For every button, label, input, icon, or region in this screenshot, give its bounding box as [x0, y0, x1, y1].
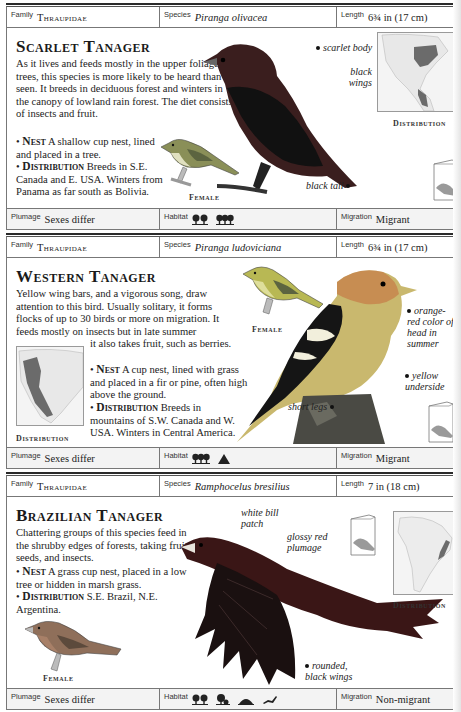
entry-divider — [6, 3, 461, 5]
species-title: Brazilian Tanager — [16, 506, 163, 526]
species-cell: Species Piranga ludoviciana — [160, 237, 337, 257]
family-value: Thraupidae — [37, 12, 87, 23]
nest-section: • Nest A cup nest, lined with grass and … — [90, 363, 250, 402]
distribution-section: • Distribution Breeds in mountains of S.… — [90, 401, 240, 440]
species-info-bar: Family Thraupidae Species Ramphocelus br… — [6, 475, 461, 497]
length-value: 6¾ in (17 cm) — [368, 242, 428, 253]
scrub-icon — [216, 694, 230, 705]
length-label: Length — [341, 479, 364, 488]
north-america-map-icon — [17, 347, 84, 426]
farmland-icon — [262, 694, 278, 705]
species-label: Species — [164, 479, 191, 488]
length-label: Length — [341, 10, 364, 19]
habitat-cell: Habitat — [160, 209, 337, 229]
map-caption: Distribution — [16, 434, 69, 443]
page-gutter — [453, 0, 461, 712]
species-description-continued: it also takes fruit, such as berries. — [90, 338, 240, 351]
plumage-value: Sexes differ — [45, 694, 95, 705]
map-caption: Distribution — [393, 119, 446, 128]
species-label: Species — [164, 240, 191, 249]
plumage-label: Plumage — [11, 212, 41, 221]
plumage-cell: Plumage Sexes differ — [7, 448, 160, 468]
annotation-rounded-black-wings: rounded, black wings — [305, 660, 365, 682]
habitat-label: Habitat — [164, 212, 188, 221]
migration-cell: Migration Non-migrant — [337, 689, 461, 709]
annotation-head-color: orange-red color of head in summer — [407, 305, 457, 349]
field-guide-scale-icon — [349, 513, 379, 557]
coniferous-forest-icon — [192, 453, 210, 464]
length-cell: Length 6¾ in (17 cm) — [337, 7, 461, 27]
annotation-black-wings: black wings — [332, 66, 372, 88]
distribution-heading: Distribution — [22, 590, 84, 602]
species-value: Piranga ludoviciana — [195, 242, 282, 253]
species-title: Scarlet Tanager — [16, 37, 150, 57]
habitat-icons — [192, 453, 230, 464]
mountain-icon — [218, 453, 230, 464]
migration-value: Migrant — [376, 453, 410, 464]
species-entry-western-tanager: Family Thraupidae Species Piranga ludovi… — [6, 233, 461, 469]
species-cell: Species Ramphocelus bresilius — [160, 476, 337, 496]
species-title: Western Tanager — [16, 267, 156, 287]
length-value: 6¾ in (17 cm) — [368, 12, 428, 23]
female-caption: Female — [43, 674, 74, 683]
migration-value: Non-migrant — [376, 694, 430, 705]
species-footer-bar: Plumage Sexes differ Habitat Migration M… — [6, 208, 461, 230]
annotation-scarlet-body: scarlet body — [316, 42, 372, 53]
distribution-heading: Distribution — [22, 160, 84, 172]
habitat-cell: Habitat — [160, 448, 337, 468]
plumage-value: Sexes differ — [45, 214, 95, 225]
entry-divider — [6, 233, 461, 235]
species-value: Ramphocelus bresilius — [195, 481, 290, 492]
migration-value: Migrant — [376, 214, 410, 225]
habitat-icons — [192, 694, 278, 705]
habitat-cell: Habitat — [160, 689, 337, 709]
migration-label: Migration — [341, 212, 372, 221]
species-label: Species — [164, 10, 191, 19]
annotation-glossy-red-plumage: glossy red plumage — [287, 531, 337, 553]
family-label: Family — [11, 10, 33, 19]
habitat-icons — [192, 214, 234, 225]
description-continued-text: it also takes fruit, such as berries. — [90, 338, 231, 349]
species-cell: Species Piranga olivacea — [160, 7, 337, 27]
species-value: Piranga olivacea — [195, 12, 268, 23]
description-text: Chattering groups of this species feed i… — [16, 527, 194, 563]
length-label: Length — [341, 240, 364, 249]
plumage-label: Plumage — [11, 692, 41, 701]
migration-cell: Migration Migrant — [337, 448, 461, 468]
distribution-map — [16, 346, 84, 426]
distribution-heading: Distribution — [96, 401, 158, 413]
plumage-cell: Plumage Sexes differ — [7, 209, 160, 229]
length-cell: Length 7 in (18 cm) — [337, 476, 461, 496]
nest-heading: Nest — [22, 135, 45, 147]
family-value: Thraupidae — [37, 481, 87, 492]
marsh-icon — [238, 694, 254, 705]
entry-body: Brazilian Tanager Chattering groups of t… — [6, 497, 461, 688]
deciduous-forest-icon — [192, 694, 208, 705]
species-footer-bar: Plumage Sexes differ Habitat Migration M… — [6, 447, 461, 469]
mixed-forest-icon — [216, 214, 234, 225]
migration-label: Migration — [341, 692, 372, 701]
family-label: Family — [11, 479, 33, 488]
distribution-map — [393, 511, 457, 595]
entry-divider — [6, 472, 461, 474]
species-entry-brazilian-tanager: Family Thraupidae Species Ramphocelus br… — [6, 472, 461, 710]
scarlet-tanager-illustration — [197, 36, 367, 201]
species-info-bar: Family Thraupidae Species Piranga olivac… — [6, 6, 461, 28]
annotation-short-legs: short legs — [288, 401, 337, 412]
map-caption: Distribution — [393, 601, 446, 610]
species-description: Yellow wing bars, and a vigorous song, d… — [16, 288, 236, 338]
plumage-value: Sexes differ — [45, 453, 95, 464]
migration-label: Migration — [341, 451, 372, 460]
nest-section: • Nest A grass cup nest, placed in a low… — [16, 565, 191, 591]
distribution-map — [377, 32, 461, 112]
annotation-yellow-underside: yellow underside — [405, 370, 455, 392]
entry-body: Western Tanager Yellow wing bars, and a … — [6, 258, 461, 447]
family-cell: Family Thraupidae — [7, 7, 160, 27]
nest-heading: Nest — [22, 565, 45, 577]
family-label: Family — [11, 240, 33, 249]
entry-body: Scarlet Tanager As it lives and feeds mo… — [6, 28, 461, 208]
length-value: 7 in (18 cm) — [368, 481, 420, 492]
nest-section: • Nest A shallow cup nest, lined and pla… — [16, 135, 166, 161]
species-description: Chattering groups of this species feed i… — [16, 527, 196, 565]
western-tanager-illustration — [237, 266, 437, 444]
